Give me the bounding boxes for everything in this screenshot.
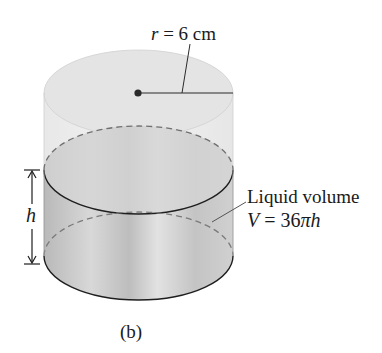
volume-h: h [311, 209, 321, 231]
pi-symbol: π [301, 209, 311, 231]
volume-var: V [247, 209, 259, 231]
height-label: h [26, 205, 36, 225]
volume-eq: = 36 [259, 209, 300, 231]
liquid-volume-title: Liquid volume [247, 186, 359, 207]
liquid-volume-label: Liquid volume [247, 187, 359, 206]
figure-caption: (b) [120, 322, 142, 341]
liquid-volume-formula: V = 36πh [247, 210, 321, 230]
radius-label: r = 6 cm [151, 24, 216, 43]
liquid-region [44, 126, 233, 300]
radius-eq: = 6 cm [158, 23, 216, 44]
cylinder-diagram [0, 0, 382, 353]
